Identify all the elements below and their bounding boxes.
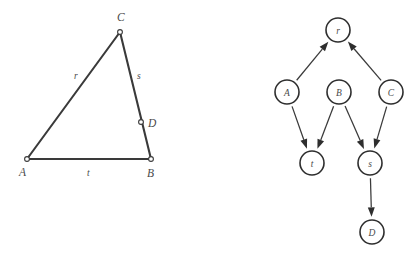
graph-node-C[interactable]: C <box>379 80 403 104</box>
graph-node-label-D: D <box>368 228 376 238</box>
graph-node-A[interactable]: A <box>275 80 299 104</box>
triangle-vertex-label-A: A <box>18 166 27 178</box>
graph-node-t[interactable]: t <box>300 151 324 175</box>
graph-nodes-layer: rABCtsD <box>275 18 403 244</box>
triangle-point-D-marker <box>139 120 144 125</box>
graph-edge-A-to-r <box>297 49 323 80</box>
triangle-point-label-D: D <box>147 117 157 129</box>
triangle-side-label-t: t <box>87 168 90 178</box>
triangle-side-s <box>120 32 151 159</box>
figure-root: A B C D r s t rABCtsD <box>0 0 418 258</box>
graph-edge-s-to-D <box>370 178 371 207</box>
triangle-vertex-label-C: C <box>117 11 125 23</box>
graph-edge-A-to-t <box>292 106 304 139</box>
triangle-side-r <box>27 32 120 159</box>
triangle-side-label-r: r <box>74 71 78 81</box>
graph-arrowhead-B-to-t <box>317 139 324 149</box>
graph-node-label-r: r <box>336 26 340 36</box>
graph-arrowhead-B-to-s <box>357 139 364 149</box>
graph-node-label-A: A <box>283 88 290 98</box>
graph-arrowhead-A-to-t <box>301 139 308 149</box>
graph-node-label-C: C <box>388 88 395 98</box>
graph-node-s[interactable]: s <box>358 151 382 175</box>
graph-edge-C-to-r <box>354 49 381 81</box>
graph-edge-C-to-s <box>377 107 387 140</box>
graph-arrowhead-s-to-D <box>368 207 375 217</box>
graph-edge-B-to-s <box>345 106 360 140</box>
graph-edges-layer <box>292 42 387 217</box>
triangle-vertex-C-marker <box>118 30 123 35</box>
triangle-vertex-label-B: B <box>147 167 154 179</box>
triangle-diagram: A B C D r s t <box>18 11 157 179</box>
graph-node-label-B: B <box>336 88 342 98</box>
graph-node-B[interactable]: B <box>327 80 351 104</box>
graph-node-label-s: s <box>368 159 372 169</box>
triangle-vertex-B-marker <box>149 157 154 162</box>
graph-node-D[interactable]: D <box>360 220 384 244</box>
graph-edge-B-to-t <box>321 106 334 140</box>
figure-canvas: A B C D r s t rABCtsD <box>0 0 418 258</box>
graph-node-label-t: t <box>311 159 314 169</box>
triangle-vertex-A-marker <box>25 157 30 162</box>
graph-node-r[interactable]: r <box>326 18 350 42</box>
triangle-side-label-s: s <box>137 71 141 81</box>
graph-arrowhead-C-to-s <box>374 138 381 148</box>
